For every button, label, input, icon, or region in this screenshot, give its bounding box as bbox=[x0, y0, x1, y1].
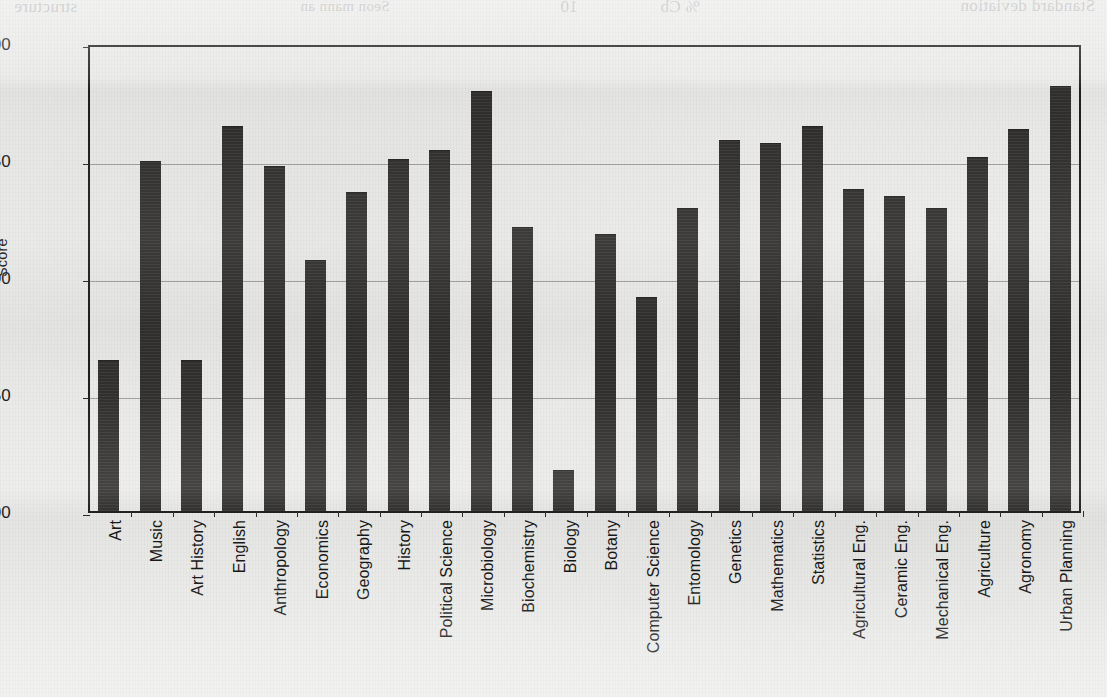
x-axis-category-label: Art bbox=[107, 520, 125, 541]
bar[interactable] bbox=[512, 227, 533, 511]
bar[interactable] bbox=[1050, 86, 1071, 511]
x-axis-category-label: Computer Science bbox=[645, 520, 663, 653]
x-axis-category-label: Mechanical Eng. bbox=[934, 520, 952, 640]
x-axis-category-label: Music bbox=[148, 520, 166, 562]
x-axis-category-label: Botany bbox=[603, 520, 621, 570]
bar[interactable] bbox=[429, 150, 450, 511]
x-axis-category-label: Geography bbox=[355, 520, 373, 600]
x-axis-tick bbox=[256, 511, 257, 517]
x-axis-tick bbox=[214, 511, 215, 517]
x-axis-category-label: Agronomy bbox=[1017, 520, 1035, 594]
x-axis-tick bbox=[752, 511, 753, 517]
x-axis-category-label: Agriculture bbox=[976, 520, 994, 598]
x-axis-category-label: Anthropology bbox=[272, 520, 290, 616]
bar-chart: Score 3.003.504.004.505.00 ArtMusicArt H… bbox=[0, 0, 1107, 697]
x-axis-tick bbox=[421, 511, 422, 517]
y-axis-tick bbox=[83, 398, 90, 399]
x-axis-tick bbox=[545, 511, 546, 517]
x-axis-category-label: Entomology bbox=[686, 520, 704, 606]
x-axis-category-label: Biochemistry bbox=[520, 520, 538, 613]
y-axis-tick bbox=[83, 281, 90, 282]
y-axis-tick bbox=[83, 47, 90, 48]
x-axis-category-label: History bbox=[396, 520, 414, 570]
y-axis-tick-label: 5.00 bbox=[0, 35, 11, 55]
bar[interactable] bbox=[264, 166, 285, 511]
y-axis-tick-label: 4.00 bbox=[0, 269, 11, 289]
bar[interactable] bbox=[305, 260, 326, 511]
bar[interactable] bbox=[98, 360, 119, 511]
x-axis-category-label: Genetics bbox=[727, 520, 745, 584]
bar[interactable] bbox=[843, 189, 864, 511]
bar[interactable] bbox=[553, 470, 574, 511]
bar-series bbox=[90, 47, 1079, 511]
x-axis-tick bbox=[711, 511, 712, 517]
x-axis-tick bbox=[1042, 511, 1043, 517]
bar[interactable] bbox=[884, 196, 905, 511]
bar[interactable] bbox=[636, 297, 657, 511]
bar[interactable] bbox=[222, 126, 243, 511]
bar[interactable] bbox=[967, 157, 988, 511]
x-axis-category-label: Statistics bbox=[810, 520, 828, 585]
y-axis-tick bbox=[83, 515, 90, 516]
bar[interactable] bbox=[677, 208, 698, 511]
x-axis-tick bbox=[1083, 511, 1084, 517]
x-axis-tick bbox=[587, 511, 588, 517]
y-axis-tick bbox=[83, 164, 90, 165]
x-axis-tick bbox=[462, 511, 463, 517]
x-axis-tick bbox=[1000, 511, 1001, 517]
bar[interactable] bbox=[926, 208, 947, 511]
x-axis-category-label: Political Science bbox=[438, 520, 456, 638]
x-axis-tick bbox=[959, 511, 960, 517]
bar[interactable] bbox=[595, 234, 616, 511]
x-axis-tick bbox=[835, 511, 836, 517]
x-axis-category-label: Urban Planning bbox=[1058, 520, 1076, 632]
bar[interactable] bbox=[719, 140, 740, 511]
x-axis-tick bbox=[793, 511, 794, 517]
y-axis-tick-label: 3.00 bbox=[0, 503, 11, 523]
bar[interactable] bbox=[760, 143, 781, 511]
x-axis-tick bbox=[504, 511, 505, 517]
x-axis-tick bbox=[628, 511, 629, 517]
x-axis-category-label: Art History bbox=[189, 520, 207, 596]
x-axis-category-label: Ceramic Eng. bbox=[893, 520, 911, 618]
x-axis-tick bbox=[380, 511, 381, 517]
bar[interactable] bbox=[181, 360, 202, 511]
x-axis-tick bbox=[876, 511, 877, 517]
x-axis-tick bbox=[131, 511, 132, 517]
bar[interactable] bbox=[471, 91, 492, 511]
bar[interactable] bbox=[140, 161, 161, 511]
x-axis-category-label: Economics bbox=[314, 520, 332, 599]
bar[interactable] bbox=[346, 192, 367, 511]
y-axis-tick-label: 4.50 bbox=[0, 152, 11, 172]
bar[interactable] bbox=[802, 126, 823, 511]
bar[interactable] bbox=[388, 159, 409, 511]
x-axis-category-label: Agricultural Eng. bbox=[851, 520, 869, 639]
x-axis-labels: ArtMusicArt HistoryEnglishAnthropologyEc… bbox=[88, 520, 1081, 695]
x-axis-tick bbox=[297, 511, 298, 517]
x-axis-tick bbox=[918, 511, 919, 517]
bar[interactable] bbox=[1008, 129, 1029, 511]
x-axis-tick bbox=[669, 511, 670, 517]
x-axis-category-label: Microbiology bbox=[479, 520, 497, 611]
x-axis-tick bbox=[338, 511, 339, 517]
x-axis-category-label: Biology bbox=[562, 520, 580, 573]
x-axis-category-label: Mathematics bbox=[769, 520, 787, 612]
x-axis-tick bbox=[173, 511, 174, 517]
x-axis-category-label: English bbox=[231, 520, 249, 573]
y-axis-tick-label: 3.50 bbox=[0, 386, 11, 406]
plot-area bbox=[88, 45, 1081, 513]
